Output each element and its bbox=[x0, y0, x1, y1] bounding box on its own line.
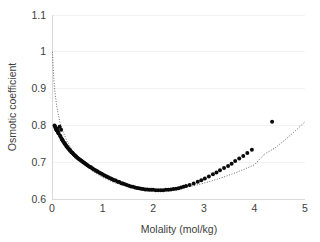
x-tick-label: 5 bbox=[302, 202, 308, 214]
x-tick-label: 3 bbox=[201, 202, 207, 214]
data-point bbox=[188, 183, 192, 187]
data-point bbox=[222, 166, 226, 170]
data-point bbox=[199, 178, 203, 182]
y-tick-labels: 0.60.70.80.911.1 bbox=[31, 9, 46, 205]
y-tick-label: 1.1 bbox=[31, 9, 46, 21]
x-axis-title: Molality (mol/kg) bbox=[141, 223, 217, 235]
y-tick-label: 1 bbox=[40, 45, 46, 57]
x-tick-label: 0 bbox=[49, 202, 55, 214]
x-tick-label: 2 bbox=[150, 202, 156, 214]
y-tick-label: 0.9 bbox=[31, 82, 46, 94]
data-point bbox=[59, 128, 63, 132]
data-points bbox=[53, 120, 275, 192]
gridlines bbox=[52, 15, 305, 199]
y-axis-title: Osmotic coefficient bbox=[6, 63, 18, 152]
data-point bbox=[230, 162, 234, 166]
data-point bbox=[214, 171, 218, 175]
data-point bbox=[211, 172, 215, 176]
y-tick-label: 0.7 bbox=[31, 156, 46, 168]
data-point bbox=[270, 120, 274, 124]
data-point bbox=[203, 176, 207, 180]
scatter-plot: 012345 0.60.70.80.911.1 Molality (mol/kg… bbox=[0, 0, 320, 242]
chart-container: 012345 0.60.70.80.911.1 Molality (mol/kg… bbox=[0, 0, 320, 242]
data-point bbox=[250, 148, 254, 152]
data-point bbox=[237, 157, 241, 161]
x-tick-label: 4 bbox=[251, 202, 257, 214]
data-point bbox=[226, 164, 230, 168]
x-tick-label: 1 bbox=[100, 202, 106, 214]
axis-lines bbox=[52, 15, 305, 199]
data-point bbox=[218, 168, 222, 172]
data-point bbox=[196, 180, 200, 184]
data-point bbox=[192, 182, 196, 186]
data-point bbox=[241, 154, 245, 158]
data-point bbox=[184, 184, 188, 188]
data-point bbox=[207, 175, 211, 179]
x-tick-labels: 012345 bbox=[49, 202, 308, 214]
data-point bbox=[245, 151, 249, 155]
y-tick-label: 0.8 bbox=[31, 119, 46, 131]
y-tick-label: 0.6 bbox=[31, 193, 46, 205]
data-point bbox=[233, 159, 237, 163]
